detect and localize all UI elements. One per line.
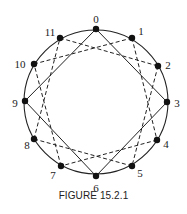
node-1	[129, 35, 135, 41]
node-5	[129, 163, 135, 169]
figure-caption: FIGURE 15.2.1	[0, 190, 187, 201]
node-label-2: 2	[165, 59, 171, 71]
node-4	[154, 137, 160, 143]
node-0	[93, 26, 99, 32]
node-label-0: 0	[93, 13, 99, 25]
node-label-9: 9	[12, 97, 18, 109]
graph-diagram: 01234567891011	[0, 0, 187, 214]
node-7	[58, 163, 64, 169]
node-label-11: 11	[45, 26, 56, 38]
node-8	[31, 136, 37, 142]
node-label-8: 8	[24, 139, 30, 151]
dashed-edges	[34, 38, 158, 166]
node-3	[164, 99, 170, 105]
node-6	[93, 173, 99, 179]
node-label-10: 10	[15, 58, 27, 70]
dashed-edge-1-4	[132, 38, 157, 140]
node-11	[57, 35, 63, 41]
node-label-4: 4	[163, 138, 169, 150]
node-labels: 01234567891011	[12, 13, 180, 194]
node-label-7: 7	[50, 169, 56, 181]
node-2	[155, 63, 161, 69]
node-label-3: 3	[174, 97, 180, 109]
node-9	[22, 98, 28, 104]
node-label-5: 5	[137, 167, 143, 179]
node-10	[31, 61, 37, 67]
outer-circle	[24, 30, 168, 174]
node-label-1: 1	[138, 25, 144, 37]
